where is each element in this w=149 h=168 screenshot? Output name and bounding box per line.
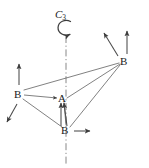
atom-label-A: A: [58, 93, 66, 104]
c3-axis-label: C3: [55, 9, 66, 20]
displacement-vectors: [7, 31, 127, 131]
molecular-symmetry-figure: C3 A B B B: [0, 0, 149, 168]
atom-label-B-left: B: [14, 89, 21, 100]
bond-lines: [23, 63, 120, 127]
bond-Bleft-Bbottom: [23, 99, 62, 127]
bond-Bleft-A: [24, 95, 57, 98]
bond-Bbottom-Bright: [70, 65, 120, 127]
bond-A-Bright: [67, 64, 120, 98]
c3-axis-label-subscript: 3: [62, 13, 66, 22]
vector-bleft-down-left: [7, 104, 17, 122]
vector-bright-up-left: [104, 33, 118, 56]
atom-label-B-bottom: B: [61, 125, 68, 136]
bond-Bleft-Bright: [24, 63, 119, 90]
figure-canvas: [0, 0, 149, 168]
atom-label-B-right: B: [120, 56, 127, 67]
rotation-arrow-icon: [58, 20, 70, 35]
